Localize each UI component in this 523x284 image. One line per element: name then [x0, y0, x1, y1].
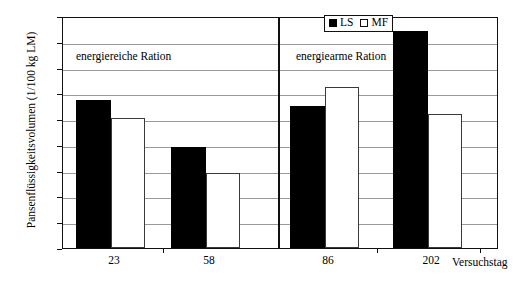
- annotation-energiearme-ration: energiearme Ration: [296, 50, 386, 62]
- legend: LS MF: [324, 15, 393, 32]
- legend-label-ls: LS: [340, 17, 353, 29]
- bar-mf-86: [325, 87, 359, 248]
- panel-divider: [278, 18, 280, 248]
- x-axis-title: Versuchstag: [452, 256, 508, 268]
- gridline: [63, 44, 497, 45]
- bar-mf-23: [111, 118, 145, 248]
- filled-square-icon: [329, 19, 337, 27]
- x-axis-tick-label: 86: [298, 254, 358, 266]
- gridline: [63, 70, 497, 71]
- bar-mf-202: [428, 114, 462, 248]
- x-axis-tick-mark: [163, 248, 164, 253]
- legend-entry-ls: LS: [329, 17, 353, 29]
- x-axis-tick-label: 58: [179, 254, 239, 266]
- gridline: [63, 95, 497, 96]
- bar-ls-202: [393, 31, 428, 248]
- bar-ls-23: [76, 100, 111, 248]
- x-axis-tick-mark: [480, 248, 481, 253]
- bar-mf-58: [206, 173, 240, 248]
- legend-label-mf: MF: [371, 17, 388, 29]
- y-axis-title: Pansenflüssigkeitsvolumen (1/100 kg LM): [25, 5, 37, 255]
- annotation-energiereiche-ration: energiereiche Ration: [76, 50, 171, 62]
- bar-ls-58: [171, 147, 206, 248]
- open-square-icon: [360, 19, 368, 27]
- chart-figure: Pansenflüssigkeitsvolumen (1/100 kg LM) …: [0, 0, 523, 284]
- bar-ls-86: [290, 106, 325, 248]
- y-axis-tick-mark: [57, 249, 62, 250]
- x-axis-tick-mark: [377, 248, 378, 253]
- legend-entry-mf: MF: [360, 17, 388, 29]
- x-axis-tick-label: 23: [84, 254, 144, 266]
